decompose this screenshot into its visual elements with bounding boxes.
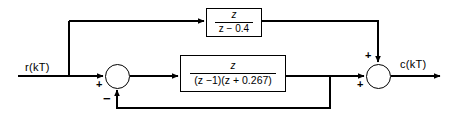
right-sum-top-plus-sign: + <box>365 50 371 61</box>
forward-block-numerator: z <box>227 61 240 73</box>
input-signal-label: r(kT) <box>25 61 50 73</box>
top-block-numerator: z <box>228 10 241 22</box>
top-block-denominator: z − 0.4 <box>215 23 253 35</box>
left-sum-plus-sign: + <box>96 79 102 90</box>
forward-path-transfer-function-block: z (z −1)(z + 0.267) <box>180 55 286 92</box>
forward-block-fraction: z (z −1)(z + 0.267) <box>190 61 276 86</box>
forward-block-denominator: (z −1)(z + 0.267) <box>190 74 276 86</box>
block-diagram: z z − 0.4 z (z −1)(z + 0.267) + − + + r(… <box>0 0 455 123</box>
output-signal-label: c(kT) <box>400 58 427 70</box>
left-sum-minus-sign: − <box>103 92 111 105</box>
right-sum-left-plus-sign: + <box>357 79 363 90</box>
left-summing-junction <box>105 64 130 89</box>
top-transfer-function-block: z z − 0.4 <box>206 8 262 37</box>
top-block-fraction: z z − 0.4 <box>215 10 253 34</box>
right-summing-junction <box>366 64 391 89</box>
